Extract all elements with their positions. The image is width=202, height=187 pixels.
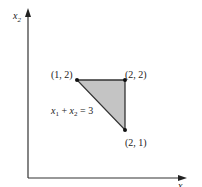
y-axis-label: x2 <box>12 10 21 24</box>
diagram-canvas: x2 x1 (1, 2) (2, 2) (2, 1) x1 + x2 = 3 <box>0 0 202 187</box>
vertex-point-2-1 <box>123 128 127 132</box>
x-axis-label: x1 <box>177 180 186 187</box>
constraint-label: x1 + x2 = 3 <box>50 105 93 118</box>
vertex-label-1-2: (1, 2) <box>51 69 73 81</box>
y-axis-arrow-icon <box>25 8 31 17</box>
vertex-label-2-1: (2, 1) <box>125 137 147 149</box>
vertex-label-2-2: (2, 2) <box>125 69 147 81</box>
vertex-point-1-2 <box>75 78 79 82</box>
